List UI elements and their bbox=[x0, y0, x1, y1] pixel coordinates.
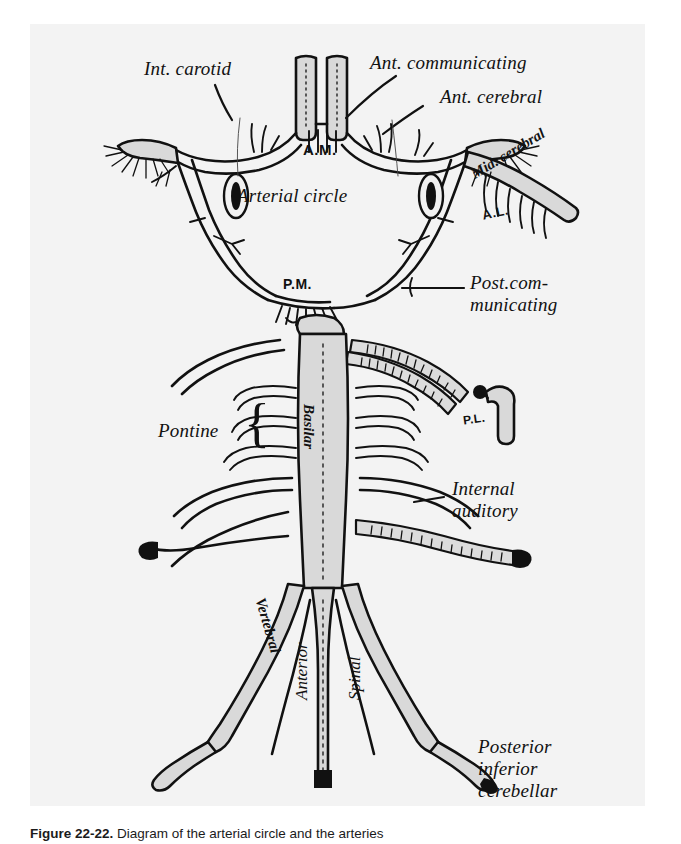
label-anterior-cerebral: Ant. cerebral bbox=[440, 86, 542, 107]
label-anterior-communicating: Ant. communicating bbox=[370, 52, 527, 73]
anterior-cerebral-stems bbox=[296, 56, 347, 140]
internal-auditory-artery bbox=[356, 520, 532, 568]
label-arterial-circle: Arterial circle bbox=[237, 185, 347, 206]
figure-number: Figure 22-22. bbox=[30, 826, 113, 841]
label-posterior-inferior-cerebellar-line3: cerebellar bbox=[478, 780, 557, 801]
label-internal-carotid: Int. carotid bbox=[144, 58, 231, 79]
label-internal-auditory-line1: Internal bbox=[452, 478, 515, 499]
left-lateral-medullary-branch bbox=[138, 536, 288, 560]
label-pontine: Pontine bbox=[158, 420, 219, 441]
figure-caption-text: Diagram of the arterial circle and the a… bbox=[117, 826, 383, 841]
posterior-communicating-junction bbox=[268, 296, 375, 334]
label-internal-auditory-line2: auditory bbox=[452, 500, 518, 521]
label-posterior-communicating-line2: municating bbox=[470, 294, 558, 315]
label-posterior-communicating-line1: Post.com- bbox=[470, 272, 548, 293]
label-posterior-inferior-cerebellar-line1: Posterior bbox=[478, 736, 552, 757]
arterial-circle-figure: .vf{fill:#d9d9d9;stroke:#111;stroke-widt… bbox=[0, 0, 681, 844]
pontine-branches-left bbox=[172, 386, 296, 566]
pontine-brace: { bbox=[244, 396, 270, 450]
right-arterial-circle-limb bbox=[367, 160, 465, 300]
label-anterior: Anterior bbox=[292, 642, 312, 700]
label-abbr-pm: P.M. bbox=[283, 276, 312, 292]
anterior-spinal-artery bbox=[312, 588, 334, 788]
figure-caption: Figure 22-22. Diagram of the arterial ci… bbox=[30, 826, 650, 841]
label-basilar: Basilar bbox=[300, 404, 317, 449]
label-spinal: Spinal bbox=[345, 657, 365, 700]
vessel-line-art: .vf{fill:#d9d9d9;stroke:#111;stroke-widt… bbox=[0, 0, 681, 844]
figure-page: .vf{fill:#d9d9d9;stroke:#111;stroke-widt… bbox=[0, 0, 681, 844]
label-abbr-am: A.M. bbox=[303, 141, 337, 158]
label-posterior-inferior-cerebellar-line2: inferior bbox=[478, 758, 538, 779]
basilar-artery bbox=[298, 334, 348, 588]
